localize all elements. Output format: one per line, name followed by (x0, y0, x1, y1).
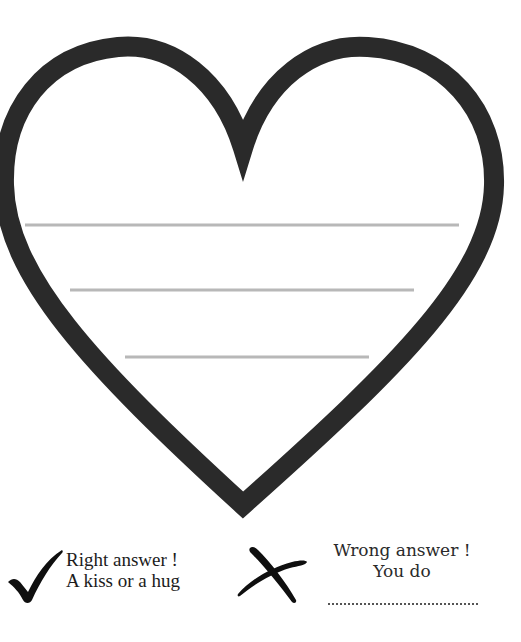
heart-outline-icon (0, 0, 521, 530)
heart-outline (4, 47, 494, 505)
cross-icon (236, 544, 308, 604)
wrong-answer-line2: You do (322, 561, 482, 582)
wrong-answer-line1: Wrong answer ! (322, 540, 482, 561)
right-answer-text: Right answer ! A kiss or a hug (66, 549, 180, 591)
answer-blank-line[interactable] (328, 599, 478, 605)
right-answer-line2: A kiss or a hug (66, 570, 180, 591)
checkmark-icon (6, 548, 64, 604)
heart-card (0, 0, 521, 530)
wrong-answer-text: Wrong answer ! You do (322, 540, 482, 582)
right-answer-line1: Right answer ! (66, 549, 180, 570)
